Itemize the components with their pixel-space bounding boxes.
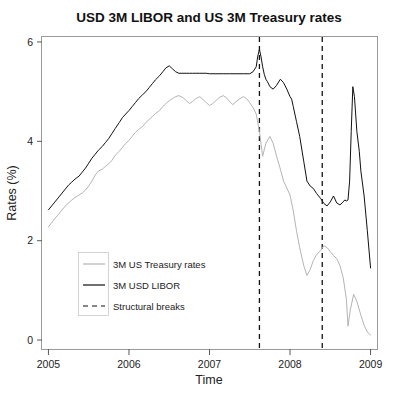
legend-label-1: 3M US Treasury rates: [113, 259, 206, 270]
legend-label-2: 3M USD LIBOR: [113, 280, 180, 291]
y-tick-label: 2: [27, 234, 33, 246]
chart-figure: USD 3M LIBOR and US 3M Treasury rates 02…: [0, 0, 394, 397]
x-tick-label: 2007: [198, 358, 222, 370]
x-tick-label: 2008: [278, 358, 302, 370]
x-tick-label: 2006: [117, 358, 141, 370]
y-tick-label: 0: [27, 334, 33, 346]
y-tick-label: 4: [27, 135, 33, 147]
legend-label-3: Structural breaks: [113, 301, 185, 312]
x-tick-label: 2009: [359, 358, 383, 370]
x-axis-title: Time: [195, 373, 222, 387]
x-tick-label: 2005: [37, 358, 61, 370]
chart-title: USD 3M LIBOR and US 3M Treasury rates: [76, 10, 342, 25]
y-tick-label: 6: [27, 36, 33, 48]
y-axis-title: Rates (%): [5, 165, 19, 221]
